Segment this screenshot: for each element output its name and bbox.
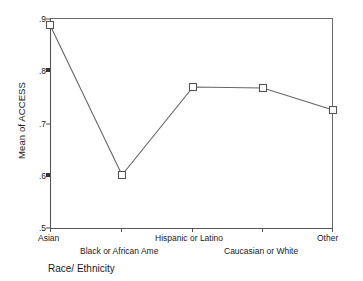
x-tick-label-asian: Asian xyxy=(38,234,59,243)
chart-container: Mean of ACCESS .9 .8 .7 .6 .5 xyxy=(0,0,363,281)
x-axis-title: Race/ Ethnicity xyxy=(48,263,115,274)
x-tick-label-hispanic-or-latino: Hispanic or Latino xyxy=(155,234,223,243)
y-axis-ticks xyxy=(46,19,50,228)
axis-frame xyxy=(50,18,333,229)
data-point-marker xyxy=(260,85,267,92)
data-series-line xyxy=(50,25,333,175)
data-point-marker xyxy=(47,22,54,29)
x-tick-label-other: Other xyxy=(317,234,338,243)
data-point-marker xyxy=(330,107,337,114)
data-point-markers xyxy=(47,22,337,179)
x-tick-label-black-or-african-ame: Black or African Ame xyxy=(80,247,158,256)
x-tick-label-caucasian-or-white: Caucasian or White xyxy=(224,247,298,256)
data-point-marker xyxy=(190,84,197,91)
data-point-marker xyxy=(119,172,126,179)
